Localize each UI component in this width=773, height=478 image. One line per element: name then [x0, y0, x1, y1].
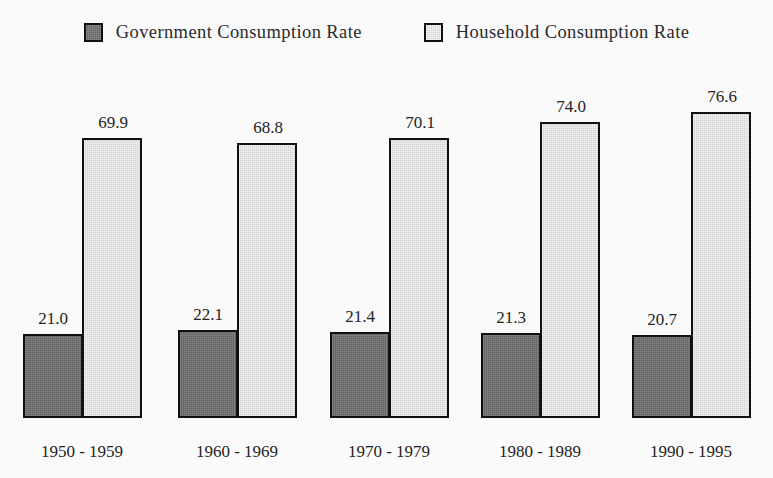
bar-government[interactable]: 20.7 [632, 335, 692, 418]
category-label: 1970 - 1979 [330, 442, 448, 462]
bar-value-label: 68.8 [253, 118, 283, 138]
bar-value-label: 20.7 [647, 310, 677, 330]
bar-household[interactable]: 74.0 [541, 122, 601, 418]
bar-household[interactable]: 70.1 [390, 138, 450, 418]
bar-value-label: 21.0 [38, 309, 68, 329]
bar-group: 21.470.1 [330, 138, 450, 418]
bar-value-label: 74.0 [556, 97, 586, 117]
bar-group: 21.374.0 [481, 122, 601, 418]
bar-rect [481, 333, 541, 418]
bar-government[interactable]: 21.4 [330, 332, 390, 418]
bar-rect [23, 334, 83, 418]
bar-value-label: 70.1 [405, 113, 435, 133]
bar-rect [178, 330, 238, 418]
bar-value-label: 22.1 [193, 305, 223, 325]
bar-group: 22.168.8 [178, 143, 298, 418]
bar-rect [237, 143, 297, 418]
category-label: 1990 - 1995 [632, 442, 750, 462]
bar-rect [330, 332, 390, 418]
category-label: 1950 - 1959 [23, 442, 141, 462]
bar-rect [632, 335, 692, 418]
bar-value-label: 76.6 [707, 87, 737, 107]
bar-group: 20.776.6 [632, 112, 752, 418]
bar-rect [540, 122, 600, 418]
category-label: 1980 - 1989 [481, 442, 599, 462]
bar-government[interactable]: 21.0 [23, 334, 83, 418]
bar-household[interactable]: 68.8 [238, 143, 298, 418]
category-label: 1960 - 1969 [178, 442, 296, 462]
bar-rect [389, 138, 449, 418]
bar-chart: Government Consumption Rate Household Co… [0, 0, 773, 478]
bar-value-label: 69.9 [98, 113, 128, 133]
bar-value-label: 21.4 [345, 307, 375, 327]
bar-household[interactable]: 76.6 [692, 112, 752, 418]
bar-rect [82, 138, 142, 418]
bar-group: 21.069.9 [23, 138, 143, 418]
bar-household[interactable]: 69.9 [83, 138, 143, 418]
bar-value-label: 21.3 [496, 308, 526, 328]
bar-rect [691, 112, 751, 418]
bar-government[interactable]: 21.3 [481, 333, 541, 418]
plot-area: 21.069.91950 - 195922.168.81960 - 196921… [0, 0, 773, 478]
bar-government[interactable]: 22.1 [178, 330, 238, 418]
